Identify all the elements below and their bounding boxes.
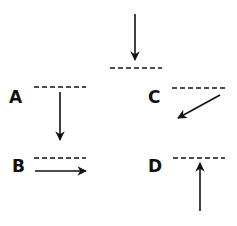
option-a: A <box>9 87 86 140</box>
option-c-diagonal-arrow-icon <box>178 95 220 118</box>
option-a-label: A <box>9 87 23 107</box>
option-c: C <box>148 87 225 118</box>
option-b: B <box>12 156 86 176</box>
option-d-label: D <box>148 156 162 176</box>
diagram-canvas: A C B D <box>0 0 237 226</box>
option-d: D <box>148 156 225 211</box>
option-b-label: B <box>12 156 25 176</box>
option-c-label: C <box>148 87 160 107</box>
incident-group <box>110 14 162 68</box>
